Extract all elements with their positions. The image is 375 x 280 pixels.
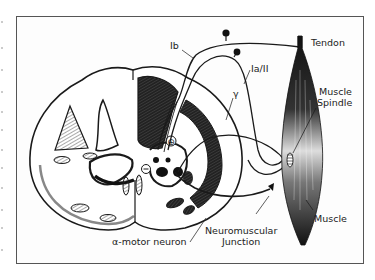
inhibitory-synapse-icon — [142, 165, 151, 174]
spinal-reflex-diagram: ⊕ — [0, 0, 375, 280]
ganglion-cell-ia — [234, 49, 241, 57]
label-nmj-2: Junction — [221, 236, 260, 247]
label-ib: Ib — [170, 40, 179, 51]
label-alpha-motor-neuron: α-motor neuron — [112, 236, 187, 247]
muscle-spindle — [287, 153, 293, 167]
label-nmj-1: Neuromuscular — [205, 225, 277, 236]
ganglion-cell-ib — [222, 29, 229, 41]
spinal-cord-cross-section: ⊕ — [30, 67, 242, 230]
label-muscle-spindle-1: Muscle — [319, 86, 352, 97]
label-ia-ii: Ia/II — [251, 63, 268, 74]
label-gamma: γ — [233, 88, 239, 99]
label-tendon: Tendon — [310, 37, 345, 48]
label-muscle-spindle-2: Spindle — [317, 97, 352, 108]
label-muscle: Muscle — [314, 213, 347, 224]
